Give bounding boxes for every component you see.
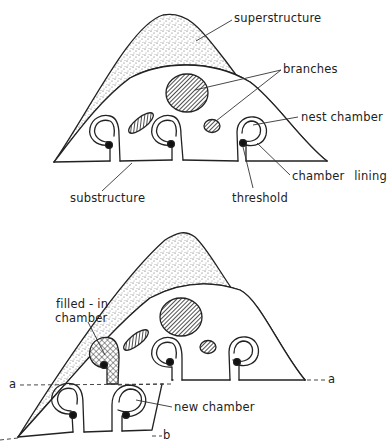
branch-large (166, 74, 208, 112)
label-nest-chamber: nest chamber (301, 111, 383, 124)
label-branches: branches (283, 63, 338, 76)
top-nest (54, 14, 327, 162)
label-level-a-right: a (328, 373, 335, 386)
label-superstructure: superstructure (234, 12, 321, 25)
level-bottom-left (0, 438, 18, 440)
label-substructure: substructure (70, 192, 145, 205)
label-new-chamber: new chamber (174, 401, 255, 414)
label-level-b: b (163, 429, 171, 442)
label-filled-in-line1: filled - in (56, 298, 108, 311)
label-threshold: threshold (232, 192, 288, 205)
bottom-nest (18, 233, 305, 437)
leader-substructure (102, 163, 132, 191)
label-level-a-left: a (9, 378, 16, 391)
label-filled-in-line2: chamber (55, 312, 107, 325)
label-chamber-lining: chamber lining (292, 170, 387, 183)
branch-small (204, 120, 220, 133)
